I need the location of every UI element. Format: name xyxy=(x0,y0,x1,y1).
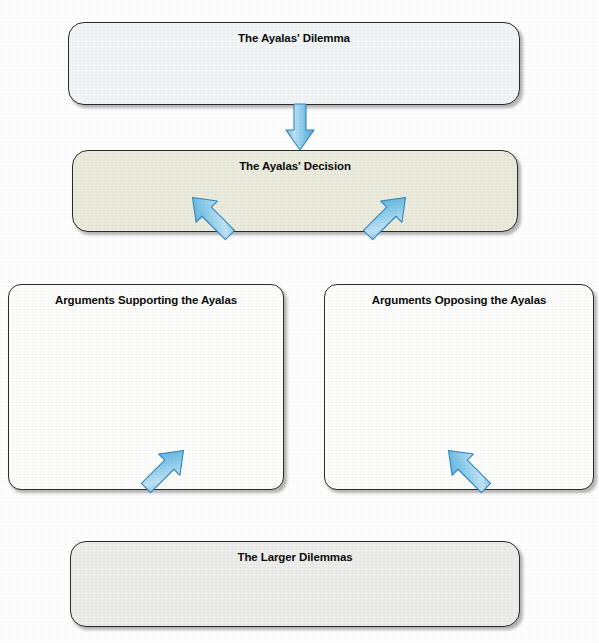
box-title-dilemma: The Ayalas' Dilemma xyxy=(69,32,519,45)
diagram-canvas: THE 2R P OF 2R 2P WHEN ONE DOES NOT SHOU… xyxy=(0,0,599,643)
arrow-decision-to-opposing xyxy=(358,232,470,288)
box-title-supporting: Arguments Supporting the Ayalas xyxy=(9,294,283,307)
arrow-decision-to-supporting xyxy=(128,232,240,288)
box-the-larger-dilemmas[interactable]: The Larger Dilemmas xyxy=(70,541,520,627)
box-title-decision: The Ayalas' Decision xyxy=(73,160,517,173)
box-title-larger: The Larger Dilemmas xyxy=(71,551,519,564)
arrow-supporting-to-larger xyxy=(132,486,242,544)
box-the-ayalas-dilemma[interactable]: The Ayalas' Dilemma xyxy=(68,22,520,105)
page-title: THE 2R P OF 2R 2P WHEN ONE DOES NOT SHOU… xyxy=(0,0,599,2)
arrow-opposing-to-larger xyxy=(390,486,500,544)
box-arguments-supporting-the-ayalas[interactable]: Arguments Supporting the Ayalas xyxy=(8,284,284,490)
box-the-ayalas-decision[interactable]: The Ayalas' Decision xyxy=(72,150,518,232)
box-arguments-opposing-the-ayalas[interactable]: Arguments Opposing the Ayalas xyxy=(324,284,594,490)
box-title-opposing: Arguments Opposing the Ayalas xyxy=(325,294,593,307)
arrow-dilemma-to-decision xyxy=(283,104,317,152)
